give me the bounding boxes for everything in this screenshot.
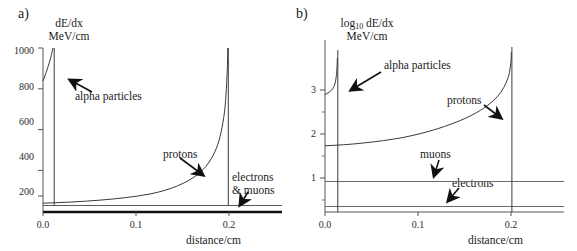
panel-a-electrons-arrow: [240, 192, 248, 205]
panel-a-protons-arrow: [180, 158, 203, 175]
panel-b-electrons-arrow: [448, 188, 459, 201]
panel-a-alpha-curve: [43, 48, 53, 81]
panel-b-proton-curve: [325, 52, 511, 146]
panel-a-plot: [0, 0, 289, 251]
panel-a-alpha-arrow: [70, 80, 92, 92]
panel-b-alpha-arrow: [351, 72, 381, 90]
panel-b-alpha-curve: [325, 58, 337, 95]
panel-a: a) dE/dx MeV/cm 200 400 600 800 1000 0.0…: [0, 0, 289, 251]
panel-b-muons-arrow: [434, 160, 439, 176]
panel-a-proton-curve: [43, 48, 228, 203]
figure-container: a) dE/dx MeV/cm 200 400 600 800 1000 0.0…: [0, 0, 577, 251]
panel-b-protons-arrow: [484, 105, 501, 118]
panel-b: b) log10 dE/dx MeV/cm 3 2 1 0.0 0.1 0.2 …: [288, 0, 577, 251]
panel-b-plot: [288, 0, 577, 251]
